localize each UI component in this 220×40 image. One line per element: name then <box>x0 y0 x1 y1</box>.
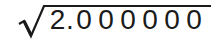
radicand-digit: 0 <box>161 5 183 35</box>
radicand-digit: 0 <box>117 5 139 35</box>
math-expression: 2 . 0 0 0 0 0 0 <box>0 0 220 40</box>
radicand-digit: 0 <box>183 5 205 35</box>
decimal-point: . <box>66 5 73 35</box>
radicand-digit: 0 <box>73 5 95 35</box>
radicand: 2 . 0 0 0 0 0 0 <box>49 5 205 35</box>
radicand-digit: 0 <box>95 5 117 35</box>
radicand-digit: 2 <box>49 5 66 35</box>
radicand-digit: 0 <box>139 5 161 35</box>
